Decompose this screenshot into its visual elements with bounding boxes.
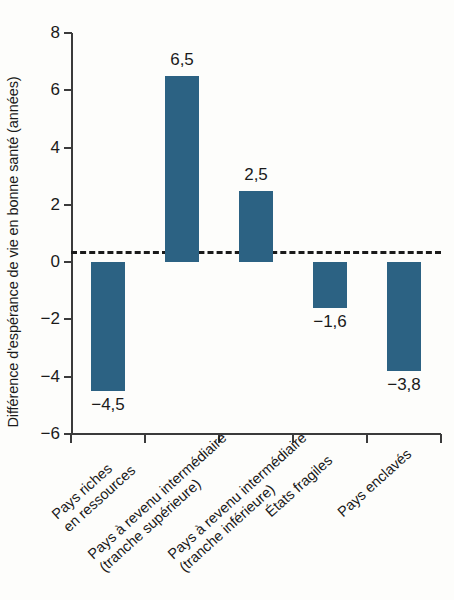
x-axis-tick — [70, 434, 72, 443]
y-axis-tick — [64, 204, 72, 206]
x-axis-tick — [440, 434, 442, 443]
bar-value-label: −1,6 — [295, 313, 365, 331]
y-axis-tick — [64, 318, 72, 320]
y-axis-tick-label: 2 — [51, 196, 60, 213]
y-axis-tick — [64, 376, 72, 378]
y-axis-tick-label: −2 — [41, 310, 60, 327]
y-axis-tick — [64, 261, 72, 263]
y-axis-tick-label: 0 — [51, 253, 60, 270]
bar[interactable] — [313, 262, 347, 308]
y-axis-tick-label: 4 — [51, 139, 60, 156]
y-axis-tick — [64, 89, 72, 91]
bar[interactable] — [387, 262, 421, 371]
x-axis-tick — [366, 434, 368, 443]
y-axis-tick-label: 8 — [51, 24, 60, 41]
bar[interactable] — [239, 191, 273, 263]
x-axis-tick — [144, 434, 146, 443]
bar[interactable] — [91, 262, 125, 391]
y-axis-tick — [64, 147, 72, 149]
y-axis-tick-label: −4 — [41, 368, 60, 385]
y-axis-tick-label: −6 — [41, 425, 60, 442]
y-axis-title: Différence d'espérance de vie en bonne s… — [0, 26, 26, 478]
x-axis-category-label: Pays enclavés — [334, 446, 415, 521]
bar-value-label: 6,5 — [147, 51, 217, 69]
bar[interactable] — [165, 76, 199, 262]
y-axis-tick — [64, 32, 72, 34]
y-axis-line — [71, 33, 73, 435]
bar-value-label: 2,5 — [221, 166, 291, 184]
y-axis-tick-label: 6 — [51, 81, 60, 98]
bar-value-label: −3,8 — [369, 376, 439, 394]
bar-chart-figure: Différence d'espérance de vie en bonne s… — [0, 0, 454, 600]
bar-value-label: −4,5 — [73, 396, 143, 414]
x-axis-line — [71, 433, 441, 435]
